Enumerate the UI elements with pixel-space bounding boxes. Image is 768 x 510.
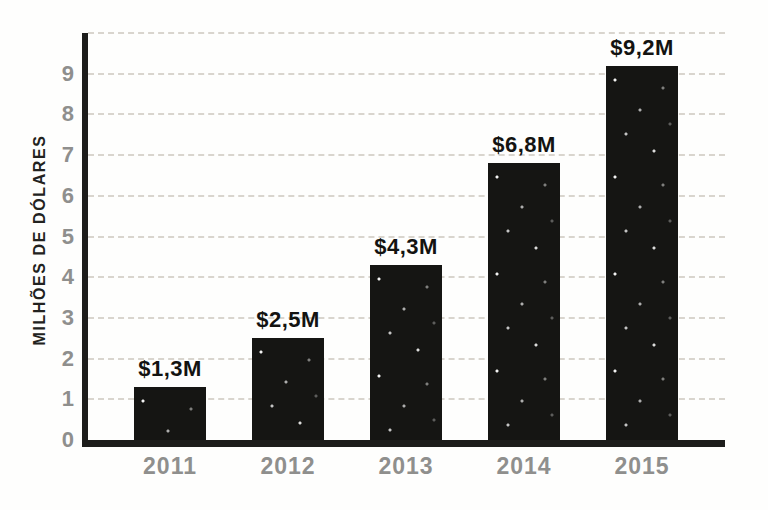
y-tick-label-1: 1 xyxy=(26,386,74,412)
y-tick-label-8: 8 xyxy=(26,101,74,127)
y-tick-label-5: 5 xyxy=(26,224,74,250)
bar-chart-figure: MILHÕES DE DÓLARES 0123456789$1,3M2011$2… xyxy=(0,0,768,510)
value-label-2012: $2,5M xyxy=(227,306,349,333)
x-tick-label-2014: 2014 xyxy=(463,452,585,480)
y-tick-label-3: 3 xyxy=(26,305,74,331)
x-axis-line xyxy=(82,440,725,447)
x-tick-label-2015: 2015 xyxy=(581,452,703,480)
bar-2011 xyxy=(134,387,206,440)
x-tick-label-2011: 2011 xyxy=(109,452,231,480)
y-tick-label-6: 6 xyxy=(26,183,74,209)
bar-2012 xyxy=(252,338,324,440)
value-label-2013: $4,3M xyxy=(345,233,467,260)
y-tick-label-2: 2 xyxy=(26,346,74,372)
value-label-2011: $1,3M xyxy=(109,355,231,382)
value-label-2015: $9,2M xyxy=(581,34,703,61)
y-tick-label-7: 7 xyxy=(26,142,74,168)
y-tick-label-0: 0 xyxy=(26,427,74,453)
x-tick-label-2012: 2012 xyxy=(227,452,349,480)
y-axis-line xyxy=(82,33,88,447)
bar-2014 xyxy=(488,163,560,440)
bar-2013 xyxy=(370,265,442,440)
bar-2015 xyxy=(606,66,678,440)
y-tick-label-9: 9 xyxy=(26,61,74,87)
y-tick-label-4: 4 xyxy=(26,264,74,290)
value-label-2014: $6,8M xyxy=(463,131,585,158)
x-tick-label-2013: 2013 xyxy=(345,452,467,480)
